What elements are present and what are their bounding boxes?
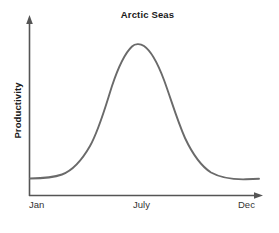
x-tick-label-dec: Dec	[238, 199, 255, 210]
x-tick-label-jan: Jan	[29, 199, 44, 210]
x-tick-label-july: July	[133, 199, 150, 210]
y-axis-label: Productivity	[12, 56, 23, 166]
productivity-curve	[30, 44, 259, 179]
chart-title: Arctic Seas	[8, 9, 279, 20]
x-axis-arrowhead	[254, 192, 263, 199]
chart-figure: Arctic Seas Productivity Jan July Dec	[0, 0, 279, 233]
